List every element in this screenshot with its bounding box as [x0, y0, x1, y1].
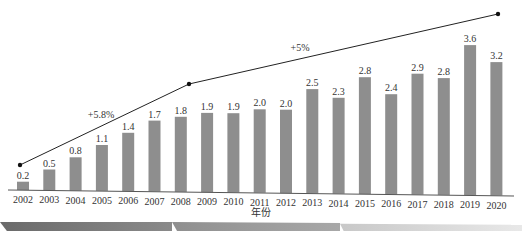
value-label-2004: 0.8	[69, 145, 82, 156]
bar-2012	[280, 110, 292, 193]
bar-2002	[17, 182, 29, 190]
value-label-2010: 1.9	[227, 101, 240, 112]
value-label-2017: 2.9	[411, 62, 424, 73]
x-tick-2007: 2007	[145, 196, 165, 207]
bar-2014	[333, 98, 345, 194]
x-tick-2016: 2016	[381, 198, 401, 209]
bar-2013	[306, 89, 318, 193]
value-label-2014: 2.3	[332, 86, 345, 97]
bar-2009	[201, 113, 213, 192]
bar-2003	[43, 170, 55, 191]
x-tick-2010: 2010	[223, 196, 243, 207]
x-tick-2003: 2003	[39, 194, 59, 205]
bar-2020	[490, 62, 502, 195]
value-label-2003: 0.5	[43, 158, 56, 169]
bar-2006	[122, 133, 134, 191]
value-label-2015: 2.8	[359, 65, 372, 76]
value-label-2013: 2.5	[306, 77, 319, 88]
trend-point-mid	[187, 82, 191, 86]
x-tick-2015: 2015	[355, 198, 375, 209]
bar-2005	[96, 145, 108, 191]
x-tick-2002: 2002	[13, 194, 33, 205]
value-label-2005: 1.1	[96, 133, 109, 144]
x-tick-2014: 2014	[329, 198, 349, 209]
bar-2004	[70, 157, 82, 190]
bar-2019	[464, 45, 476, 195]
x-tick-2005: 2005	[92, 195, 112, 206]
x-tick-2012: 2012	[276, 197, 296, 208]
x-tick-2013: 2013	[302, 197, 322, 208]
x-tick-2018: 2018	[434, 199, 454, 210]
x-tick-2017: 2017	[408, 199, 428, 210]
x-tick-2020: 2020	[486, 200, 506, 211]
value-label-2020: 3.2	[490, 50, 503, 61]
bar-2015	[359, 77, 371, 194]
x-tick-2008: 2008	[171, 196, 191, 207]
decorative-band-left	[0, 222, 172, 231]
bar-2017	[412, 74, 424, 195]
bar-2008	[175, 117, 187, 192]
bar-chart: 0.20.50.81.11.41.71.81.91.92.02.02.52.32…	[0, 0, 522, 231]
x-axis-title: 年份	[251, 206, 271, 218]
annotation-growth-2002-2008: +5.8%	[88, 109, 114, 120]
bar-2007	[149, 121, 161, 192]
value-label-2011: 2.0	[253, 97, 266, 108]
value-label-2018: 2.8	[438, 66, 451, 77]
value-label-2008: 1.8	[175, 105, 188, 116]
x-tick-2009: 2009	[197, 196, 217, 207]
x-tick-2006: 2006	[118, 195, 138, 206]
x-tick-2004: 2004	[66, 195, 86, 206]
value-label-2019: 3.6	[464, 33, 477, 44]
bar-2010	[227, 113, 239, 192]
value-label-2007: 1.7	[148, 109, 161, 120]
bar-2018	[438, 78, 450, 195]
value-label-2009: 1.9	[201, 101, 214, 112]
value-label-2002: 0.2	[17, 170, 30, 181]
bar-2016	[385, 94, 397, 194]
trend-point-start	[18, 163, 22, 167]
value-label-2012: 2.0	[280, 98, 293, 109]
value-label-2006: 1.4	[122, 121, 135, 132]
bar-2011	[254, 109, 266, 192]
annotation-growth-2008-2020: +5%	[291, 42, 310, 53]
value-label-2016: 2.4	[385, 82, 398, 93]
trend-point-end	[496, 12, 500, 16]
decorative-band-middle	[172, 222, 340, 231]
x-tick-2019: 2019	[460, 199, 480, 210]
